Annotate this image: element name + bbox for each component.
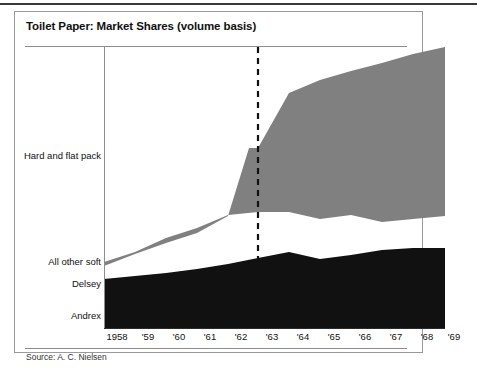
x-tick-63: '63 bbox=[266, 331, 278, 342]
x-axis-tick-labels: 1958 '59 '60 '61 '62 '63 '64 '65 '66 '67… bbox=[104, 331, 445, 345]
band-label-delsey: Delsey bbox=[5, 278, 101, 289]
x-tick-62: '62 bbox=[235, 331, 247, 342]
x-tick-61: '61 bbox=[204, 331, 216, 342]
band-label-hard-and-flat-pack: Hard and flat pack bbox=[5, 150, 101, 161]
x-tick-60: '60 bbox=[173, 331, 185, 342]
x-tick-1958: 1958 bbox=[106, 331, 127, 342]
plot-area bbox=[104, 47, 445, 328]
band-labels-group: Hard and flat pack All other soft Delsey… bbox=[0, 0, 101, 378]
x-tick-68: '68 bbox=[421, 331, 433, 342]
source-divider bbox=[25, 348, 407, 349]
x-tick-66: '66 bbox=[359, 331, 371, 342]
x-tick-64: '64 bbox=[297, 331, 309, 342]
y-axis-line bbox=[104, 47, 105, 329]
x-tick-65: '65 bbox=[328, 331, 340, 342]
source-note: Source: A. C. Nielsen bbox=[26, 352, 107, 362]
x-tick-69: '69 bbox=[448, 331, 460, 342]
x-axis-line bbox=[104, 328, 445, 329]
x-tick-59: '59 bbox=[142, 331, 154, 342]
x-tick-67: '67 bbox=[390, 331, 402, 342]
band-label-andrex: Andrex bbox=[5, 310, 101, 321]
area-andrex bbox=[104, 248, 445, 328]
band-label-all-other-soft: All other soft bbox=[5, 256, 101, 267]
stacked-area-chart bbox=[104, 47, 445, 328]
area-hard-and-flat-pack bbox=[104, 47, 445, 266]
